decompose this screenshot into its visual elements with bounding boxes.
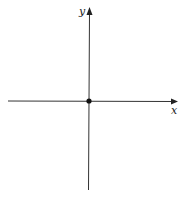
coordinate-plane: y x bbox=[0, 0, 183, 197]
y-axis-arrow-icon bbox=[87, 7, 93, 15]
y-axis-label: y bbox=[78, 5, 86, 18]
x-axis-label: x bbox=[171, 104, 178, 117]
origin-point bbox=[86, 98, 91, 103]
